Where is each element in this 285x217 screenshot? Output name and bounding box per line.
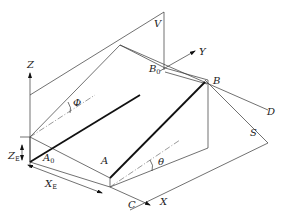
top-edges	[120, 45, 268, 148]
point-a0-label: A0	[42, 152, 54, 165]
xe-dimension-label: XE	[44, 178, 57, 191]
point-b-label: B	[212, 75, 220, 86]
sloped-ridges	[30, 82, 205, 178]
point-a-label: A	[100, 155, 108, 166]
svg-text:A0: A0	[42, 152, 54, 165]
phi-angle-label: Φ	[73, 97, 81, 108]
z-axis-label: Z	[26, 59, 35, 70]
y-axis	[165, 51, 195, 68]
svg-text:ZE: ZE	[7, 150, 20, 163]
point-d-label: D	[266, 106, 275, 117]
geometry-diagram: Z Y X V S B0 B D A0 A C Φ θ ZE XE	[0, 0, 285, 217]
inclined-plane-s	[130, 80, 268, 210]
theta-angle-arc	[150, 160, 153, 171]
vertical-plane-v	[30, 12, 164, 95]
x-axis-label: X	[159, 196, 168, 207]
plane-v-label: V	[154, 18, 163, 29]
y-axis-label: Y	[199, 46, 207, 57]
ze-dimension-label: ZE	[7, 150, 20, 163]
wedge-left-triangle	[30, 45, 165, 137]
plane-s-label: S	[250, 127, 257, 138]
svg-text:XE: XE	[44, 178, 57, 191]
dimension-xe	[28, 165, 102, 193]
wedge-box	[30, 137, 208, 205]
dimension-ze	[20, 137, 30, 160]
theta-angle-label: θ	[158, 156, 164, 167]
angle-reference-lines	[30, 95, 180, 187]
point-c-label: C	[128, 199, 136, 210]
